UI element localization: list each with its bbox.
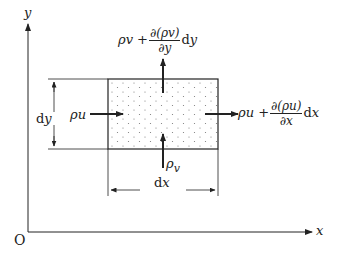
d-symbol: d [181, 32, 189, 47]
bottom-inflow-label: ρv [166, 157, 180, 174]
prefix: ρu + [238, 105, 269, 120]
origin-label: O [14, 233, 25, 247]
top-outflow-label: ρv +∂(ρv)∂ydy [118, 27, 197, 54]
denominator: ∂y [158, 41, 171, 54]
numerator: ∂(ρv) [149, 27, 180, 41]
v-subscript: v [174, 162, 180, 175]
x-symbol: x [312, 105, 319, 120]
dx-label: dx [154, 176, 170, 189]
prefix: ρv + [118, 32, 148, 47]
d-symbol: d [303, 105, 311, 120]
x-axis-label: x [316, 224, 323, 237]
dy-label: dy [36, 112, 52, 125]
left-inflow-label: ρu [70, 108, 86, 121]
derivative-fraction: ∂(ρu)∂x [270, 100, 302, 127]
y-symbol: y [44, 111, 51, 126]
right-outflow-label: ρu +∂(ρu)∂xdx [238, 100, 319, 127]
derivative-fraction: ∂(ρv)∂y [149, 27, 180, 54]
y-axis-label: y [24, 6, 31, 19]
x-symbol: x [162, 175, 169, 190]
numerator: ∂(ρu) [270, 100, 302, 114]
rho-symbol: ρ [166, 156, 174, 171]
y-symbol: y [190, 32, 197, 47]
denominator: ∂x [280, 114, 293, 127]
